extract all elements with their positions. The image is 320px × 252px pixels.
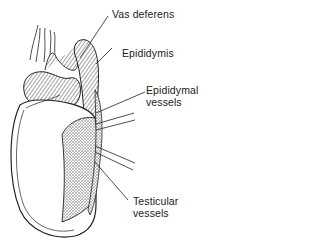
label-vas-deferens: Vas deferens xyxy=(112,8,174,20)
label-epididymis: Epididymis xyxy=(122,47,174,59)
label-testicular-vessels: Testicular vessels xyxy=(133,195,178,219)
label-epididymal-vessels: Epididymal vessels xyxy=(146,84,198,108)
